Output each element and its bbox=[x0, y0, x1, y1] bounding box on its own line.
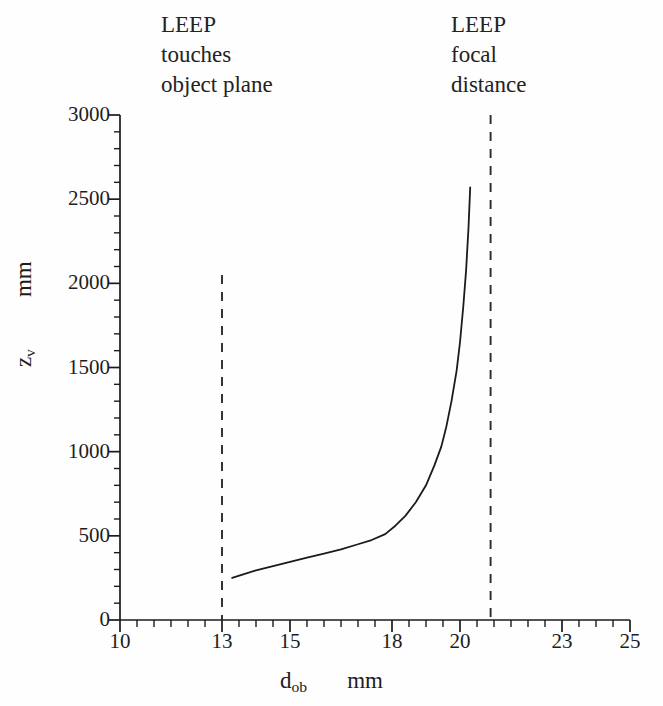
y-tick-label-1500: 1500 bbox=[46, 357, 110, 378]
series-line bbox=[232, 187, 470, 578]
x-axis-symbol-subscript: ob bbox=[292, 678, 308, 695]
x-axis-unit: mm bbox=[347, 668, 383, 693]
x-tick-label-15: 15 bbox=[265, 631, 315, 652]
y-axis-symbol-subscript: v bbox=[21, 349, 38, 357]
y-axis-symbol: zv bbox=[11, 349, 39, 367]
x-axis-symbol: dob bbox=[280, 668, 307, 693]
y-axis-symbol-base: z bbox=[11, 357, 36, 367]
y-tick-label-1000: 1000 bbox=[46, 441, 110, 462]
x-axis-symbol-base: d bbox=[280, 668, 292, 693]
x-axis-minor-ticks bbox=[137, 620, 613, 627]
figure-canvas: LEEP touches object plane LEEP focal dis… bbox=[0, 0, 663, 706]
x-tick-label-18: 18 bbox=[367, 631, 417, 652]
y-axis-tick-labels: 050010001500200025003000 bbox=[46, 0, 110, 706]
y-axis-major-ticks bbox=[109, 115, 120, 620]
y-axis-unit: mm bbox=[11, 261, 37, 297]
x-tick-label-23: 23 bbox=[537, 631, 587, 652]
x-tick-label-10: 10 bbox=[95, 631, 145, 652]
x-tick-label-13: 13 bbox=[197, 631, 247, 652]
y-tick-label-0: 0 bbox=[46, 609, 110, 630]
x-tick-label-20: 20 bbox=[435, 631, 485, 652]
data-series bbox=[232, 187, 470, 578]
y-tick-label-500: 500 bbox=[46, 525, 110, 546]
y-axis-title: zvmm bbox=[11, 249, 39, 379]
y-tick-label-3000: 3000 bbox=[46, 104, 110, 125]
y-tick-label-2000: 2000 bbox=[46, 272, 110, 293]
axis-spines bbox=[120, 115, 630, 620]
x-tick-label-25: 25 bbox=[605, 631, 655, 652]
x-axis-title: dobmm bbox=[0, 668, 663, 696]
y-tick-label-2500: 2500 bbox=[46, 188, 110, 209]
x-axis-tick-labels: 10131518202325 bbox=[0, 631, 663, 661]
